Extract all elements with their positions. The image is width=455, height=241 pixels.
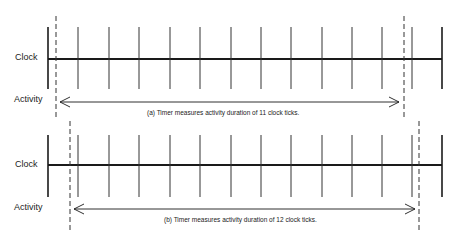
activity-label-b: Activity bbox=[14, 202, 43, 212]
clock-timing-diagram bbox=[0, 0, 455, 241]
activity-label-a: Activity bbox=[14, 94, 43, 104]
caption-b: (b) Timer measures activity duration of … bbox=[164, 216, 317, 223]
caption-a: (a) Timer measures activity duration of … bbox=[147, 109, 299, 116]
clock-label-a: Clock bbox=[15, 52, 38, 62]
clock-label-b: Clock bbox=[15, 159, 38, 169]
